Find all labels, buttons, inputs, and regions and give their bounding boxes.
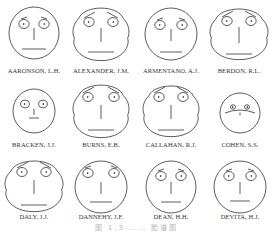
- face: [75, 161, 127, 213]
- eyebrow: [108, 87, 119, 93]
- face-label: DEAN, H.H.: [154, 213, 189, 220]
- eyebrow: [83, 87, 94, 93]
- pupil: [87, 97, 88, 98]
- face-label: BERDON, R.L.: [218, 67, 261, 74]
- pupil: [226, 21, 227, 22]
- eyebrow: [248, 169, 254, 171]
- face-label: DALY, J.J.: [19, 213, 48, 220]
- eyebrow: [179, 18, 185, 20]
- face: [73, 8, 129, 61]
- pupil: [21, 172, 22, 173]
- pupil: [158, 97, 159, 98]
- pupil: [228, 176, 229, 177]
- eyebrow: [84, 12, 95, 18]
- eyebrow: [157, 18, 163, 20]
- pupil: [182, 25, 183, 26]
- face: [13, 89, 55, 133]
- face: [5, 161, 63, 212]
- pupil: [159, 25, 160, 26]
- pupil: [114, 173, 115, 174]
- pupil: [88, 22, 89, 23]
- pupil: [46, 172, 47, 173]
- eyebrow: [178, 169, 184, 171]
- figure-caption: 图 1.3 …… 脸谱图: [0, 222, 273, 232]
- pupil: [23, 24, 24, 25]
- pupil: [43, 104, 44, 105]
- pupil: [232, 107, 233, 108]
- pupil: [247, 107, 248, 108]
- eyebrow: [21, 17, 27, 19]
- pupil: [251, 176, 252, 177]
- face: [73, 85, 129, 138]
- face-label: COHEN, S.S.: [221, 141, 258, 148]
- pupil: [113, 22, 114, 23]
- face: [210, 9, 268, 60]
- pupil: [160, 176, 161, 177]
- face: [220, 93, 260, 133]
- chernoff-faces-figure: [0, 0, 273, 233]
- face: [214, 161, 266, 213]
- pupil: [24, 104, 25, 105]
- eyebrow: [107, 12, 118, 18]
- face-label: DANNEHY, J.F.: [79, 213, 124, 220]
- pupil: [251, 21, 252, 22]
- face-label: ARMENTANO, A.J.: [143, 67, 199, 74]
- face: [145, 8, 197, 60]
- face-label: BRACKEN, J.J.: [12, 141, 56, 148]
- face-label: BURNS, E.B.: [82, 141, 120, 148]
- face-label: CALLAHAN, R.J.: [146, 141, 197, 148]
- face: [146, 161, 196, 213]
- face-label: AARONSON, L.H.: [8, 67, 61, 74]
- pupil: [87, 173, 88, 174]
- pupil: [181, 176, 182, 177]
- face: [9, 7, 59, 59]
- face: [143, 86, 199, 137]
- pupil: [44, 24, 45, 25]
- eyebrow: [226, 169, 232, 171]
- pupil: [114, 97, 115, 98]
- eyebrow: [158, 169, 164, 171]
- face-label: ALEXANDER, J.M.: [73, 67, 129, 74]
- face-label: DEVITA, H.J.: [221, 213, 260, 220]
- pupil: [183, 97, 184, 98]
- eyebrow: [41, 17, 47, 19]
